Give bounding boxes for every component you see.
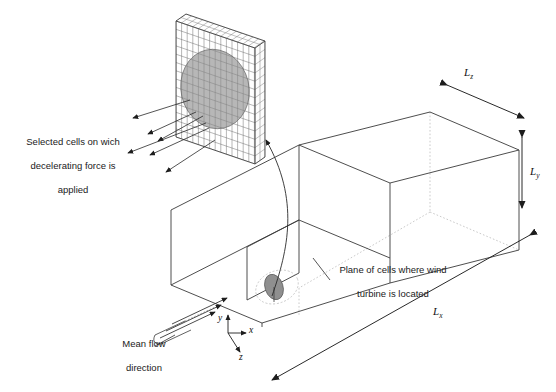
selected-cells-line-2: decelerating force is	[30, 160, 115, 171]
dimension-arrow-group	[272, 85, 530, 380]
turbine-plane-top-edge	[247, 220, 299, 247]
mean-flow-label: Mean flow direction	[106, 326, 182, 374]
top-ridge	[299, 145, 390, 183]
dimension-label-lx: Lx	[433, 305, 442, 320]
selected-cells-arrow-6	[166, 140, 215, 172]
bottom-near-edge	[171, 285, 262, 323]
axis-label-z: z	[239, 352, 243, 362]
top-far-right	[430, 112, 519, 150]
diagram-vector-layer	[0, 0, 556, 392]
axis-z-arrow	[228, 333, 240, 352]
coordinate-axes	[228, 315, 246, 352]
axis-label-y: y	[218, 313, 222, 323]
dimension-label-lz: Lz	[464, 66, 473, 81]
axis-label-x: x	[249, 325, 253, 335]
mesh-slab-right-facet	[255, 41, 265, 164]
turbine-plane-label: Plane of cells where wind turbine is loc…	[329, 252, 457, 300]
selected-cells-line-3: applied	[58, 184, 89, 195]
top-right-run	[390, 150, 519, 183]
turbine-plane-line-2: turbine is located	[357, 288, 429, 299]
dimension-ly-subscript: y	[536, 171, 539, 180]
mesh-plane-group	[173, 14, 265, 164]
top-near-to-far	[299, 112, 430, 145]
dimension-arrow-lz	[447, 85, 524, 118]
turbine-plane-line-1: Plane of cells where wind	[339, 264, 446, 275]
turbine-plane-leader	[313, 258, 330, 280]
mean-flow-line-2: direction	[126, 362, 162, 373]
mean-flow-line-1: Mean flow	[122, 338, 165, 349]
selected-cells-line-1: Selected cells on wich	[26, 136, 119, 147]
selected-cells-label: Selected cells on wich decelerating forc…	[10, 124, 136, 196]
turbine-disk-group	[251, 264, 304, 310]
diagram-canvas: Selected cells on wich decelerating forc…	[0, 0, 556, 392]
dimension-lx-subscript: x	[439, 311, 442, 320]
dimension-lz-subscript: z	[470, 72, 473, 81]
hidden-bottom-right	[430, 212, 519, 250]
dimension-label-ly: Ly	[530, 165, 539, 180]
